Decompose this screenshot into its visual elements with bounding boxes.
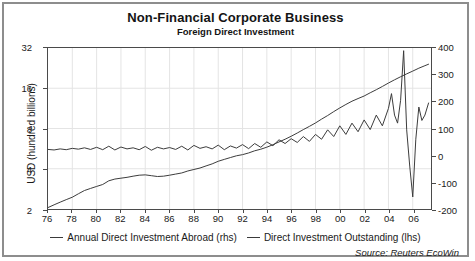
x-tick-mark xyxy=(291,210,292,213)
y-right-tick-mark xyxy=(432,156,436,157)
y-right-tick-label: -200 xyxy=(438,205,457,216)
y-left-tick-label: 16 xyxy=(21,82,32,93)
x-tick-mark xyxy=(340,210,341,213)
series-lines xyxy=(48,48,431,209)
y-right-tick-mark xyxy=(432,74,436,75)
x-tick-label: 96 xyxy=(286,213,297,224)
x-tick-label: 80 xyxy=(91,213,102,224)
y-left-tick-label: 4 xyxy=(27,164,32,175)
plot-area xyxy=(47,47,432,210)
x-tick-mark xyxy=(71,210,72,213)
legend-swatch-icon xyxy=(247,237,260,238)
y-right-tick-mark xyxy=(432,210,436,211)
x-tick-label: 86 xyxy=(164,213,175,224)
x-tick-mark xyxy=(365,210,366,213)
x-tick-mark xyxy=(120,210,121,213)
x-tick-mark xyxy=(389,210,390,213)
y-right-tick-mark xyxy=(432,47,436,48)
x-tick-label: 06 xyxy=(408,213,419,224)
chart-frame: Non-Financial Corporate Business Foreign… xyxy=(2,2,469,257)
y-left-tick-mark xyxy=(43,129,47,130)
y-right-tick-label: 200 xyxy=(438,96,454,107)
x-tick-label: 98 xyxy=(311,213,322,224)
x-tick-label: 88 xyxy=(188,213,199,224)
y-right-tick-label: 0 xyxy=(438,150,443,161)
y-right-tick-label: 100 xyxy=(438,123,454,134)
legend-swatch-icon xyxy=(50,237,63,238)
y-left-tick-mark xyxy=(43,88,47,89)
y-left-tick-label: 2 xyxy=(27,205,32,216)
x-tick-mark xyxy=(243,210,244,213)
legend-label: Direct Investment Outstanding (lhs) xyxy=(264,232,421,243)
x-tick-mark xyxy=(47,210,48,213)
x-tick-label: 78 xyxy=(66,213,77,224)
y-right-tick-label: 300 xyxy=(438,69,454,80)
x-tick-label: 02 xyxy=(359,213,370,224)
x-tick-mark xyxy=(218,210,219,213)
x-tick-label: 76 xyxy=(42,213,53,224)
x-tick-mark xyxy=(316,210,317,213)
x-tick-mark xyxy=(96,210,97,213)
x-tick-label: 00 xyxy=(335,213,346,224)
y-right-tick-mark xyxy=(432,129,436,130)
x-tick-label: 82 xyxy=(115,213,126,224)
x-tick-mark xyxy=(194,210,195,213)
y-left-tick-mark xyxy=(43,169,47,170)
legend-item-annual-direct-investment-abroad: Annual Direct Investment Abroad (rhs) xyxy=(50,232,237,243)
x-tick-mark xyxy=(414,210,415,213)
x-tick-label: 94 xyxy=(262,213,273,224)
chart-legend: Annual Direct Investment Abroad (rhs) Di… xyxy=(4,232,467,243)
y-right-tick-mark xyxy=(432,183,436,184)
y-right-tick-mark xyxy=(432,101,436,102)
y-left-tick-label: 32 xyxy=(21,42,32,53)
x-tick-label: 04 xyxy=(384,213,395,224)
x-tick-mark xyxy=(145,210,146,213)
source-attribution: Source: Reuters EcoWin xyxy=(355,247,459,258)
x-tick-label: 84 xyxy=(139,213,150,224)
chart-subtitle: Foreign Direct Investment xyxy=(4,26,467,37)
x-tick-mark xyxy=(169,210,170,213)
chart-title: Non-Financial Corporate Business xyxy=(4,10,467,25)
legend-label: Annual Direct Investment Abroad (rhs) xyxy=(67,232,237,243)
y-left-tick-label: 8 xyxy=(27,123,32,134)
x-tick-label: 90 xyxy=(213,213,224,224)
y-left-tick-mark xyxy=(43,47,47,48)
y-right-tick-label: 400 xyxy=(438,42,454,53)
legend-item-direct-investment-outstanding: Direct Investment Outstanding (lhs) xyxy=(247,232,421,243)
y-right-tick-label: -100 xyxy=(438,177,457,188)
x-tick-label: 92 xyxy=(237,213,248,224)
x-tick-mark xyxy=(267,210,268,213)
